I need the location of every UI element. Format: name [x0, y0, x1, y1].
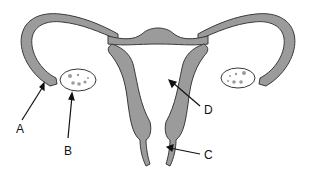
left-ovary	[60, 69, 96, 91]
right-ovary	[221, 68, 255, 88]
label-c: C	[204, 148, 213, 162]
label-d: D	[204, 103, 213, 117]
reproductive-system-diagram: A B C D	[0, 0, 316, 173]
arrow-b	[68, 96, 72, 138]
uterus-fundus	[108, 28, 208, 45]
label-a: A	[16, 122, 24, 136]
arrow-a	[22, 85, 44, 120]
label-b: B	[64, 144, 72, 158]
uterus-left-wall	[108, 44, 151, 166]
